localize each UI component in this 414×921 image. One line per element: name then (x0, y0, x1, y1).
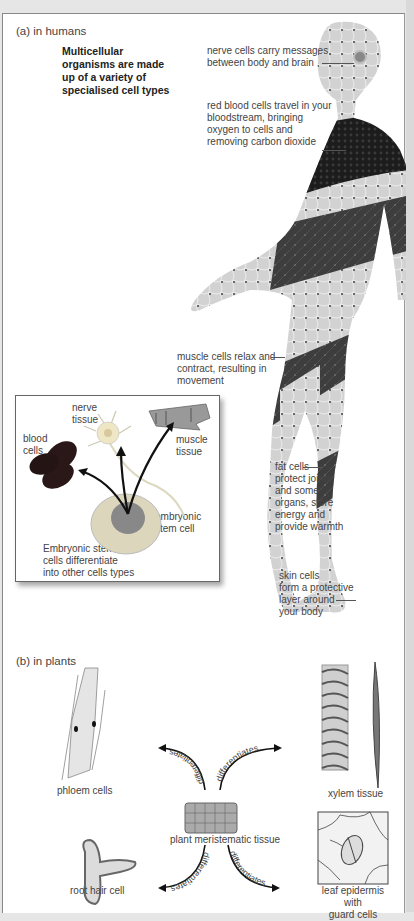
plants-illustration: differentiates differentiates differenti… (0, 640, 414, 912)
skin-leader-line (336, 600, 356, 601)
callout-line: your body (279, 606, 353, 618)
leaf-epidermis-icon (318, 812, 388, 884)
callout-line: provide warmth (275, 521, 343, 533)
callout-line: form a protective (279, 582, 353, 594)
meristem-label: plant meristematic tissue (170, 834, 280, 846)
callout-line: oxygen to cells and (207, 124, 332, 136)
muscle-cells-callout: muscle cells relax and contract, resulti… (177, 351, 275, 387)
skin-cells-callout: skin cells form a protective layer aroun… (279, 570, 353, 618)
callout-line: skin cells (279, 570, 353, 582)
differentiates-label: differentiates (214, 743, 260, 783)
fat-leader-line (303, 467, 323, 468)
callout-line: red blood cells travel in your (207, 100, 332, 112)
callout-line: muscle cells relax and (177, 351, 275, 363)
leaf-epidermis-label: leaf epidermis with guard cells (313, 885, 393, 921)
meristem-tissue-icon (185, 803, 237, 833)
muscle-icon (149, 404, 210, 430)
xylem-tissue-label: xylem tissue (328, 788, 383, 800)
label-line: leaf epidermis with (313, 885, 393, 909)
fat-cells-callout: fat cells protect joints and some organs… (275, 461, 343, 533)
differentiates-label: differentiates (167, 747, 205, 785)
callout-line: bloodstream, bringing (207, 112, 332, 124)
differentiates-label: differentiates (169, 851, 211, 894)
callout-line: organs, store (275, 497, 343, 509)
red-blood-cells-callout: red blood cells travel in your bloodstre… (207, 100, 332, 148)
callout-line: between body and brain (207, 57, 328, 69)
xylem-tissue-icon (322, 662, 379, 788)
nerve-leader-line (322, 63, 354, 64)
blood-leader-line (322, 150, 346, 151)
blood-cells-icon (26, 435, 82, 494)
callout-line: protect joints (275, 473, 343, 485)
callout-line: energy and (275, 509, 343, 521)
callout-line: movement (177, 375, 275, 387)
label-line: guard cells (313, 909, 393, 921)
callout-line: and some (275, 485, 343, 497)
callout-line: contract, resulting in (177, 363, 275, 375)
differentiation-arrows (81, 426, 171, 514)
phloem-cells-label: phloem cells (57, 785, 113, 797)
root-hair-cell-label: root hair cell (70, 885, 124, 897)
differentiates-label: differentiates (228, 850, 268, 889)
nerve-cells-callout: nerve cells carry messages between body … (207, 45, 328, 69)
stem-cell-inset: nerve tissue blood cells muscle tissue e… (15, 395, 220, 582)
phloem-cells-icon (62, 668, 105, 780)
callout-line: removing carbon dioxide (207, 136, 332, 148)
inset-illustration (16, 396, 219, 581)
callout-line: nerve cells carry messages (207, 45, 328, 57)
muscle-leader-line (271, 357, 285, 358)
